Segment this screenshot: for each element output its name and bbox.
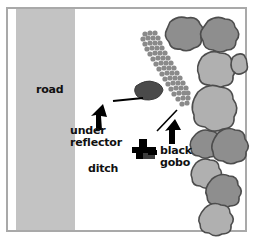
label-black-gobo: black gobo	[160, 145, 192, 169]
label-under-reflector: under reflector	[70, 125, 122, 149]
label-road: road	[36, 84, 63, 96]
diagram-canvas: road under reflector ditch black gobo	[0, 0, 257, 241]
road-region	[16, 9, 75, 230]
label-ditch: ditch	[88, 163, 118, 175]
